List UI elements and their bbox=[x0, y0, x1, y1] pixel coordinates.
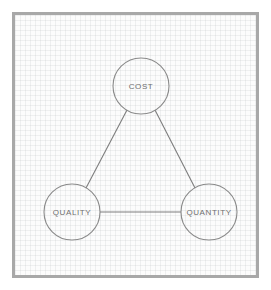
node-quality[interactable]: QUALITY bbox=[44, 184, 100, 240]
edge-cost-quantity bbox=[155, 110, 195, 188]
node-quantity[interactable]: QUANTITY bbox=[181, 184, 237, 240]
edges-group bbox=[86, 110, 195, 212]
screenshot-canvas: COST QUALITY QUANTITY bbox=[0, 0, 271, 290]
triangle-diagram: COST QUALITY QUANTITY bbox=[15, 15, 262, 281]
node-cost[interactable]: COST bbox=[113, 58, 169, 114]
node-cost-label: COST bbox=[129, 82, 154, 91]
node-quality-label: QUALITY bbox=[53, 208, 91, 217]
edge-cost-quality bbox=[86, 110, 127, 188]
diagram-frame: COST QUALITY QUANTITY bbox=[12, 12, 259, 278]
node-quantity-label: QUANTITY bbox=[186, 208, 231, 217]
